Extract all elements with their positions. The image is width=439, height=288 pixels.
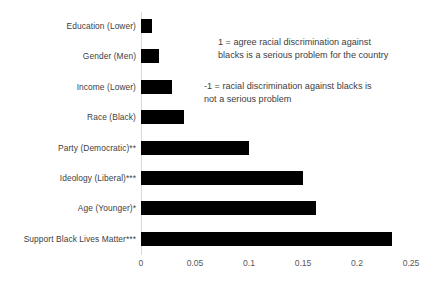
annotation-positive-coding: 1 = agree racial discrimination against … — [218, 36, 433, 62]
category-label-container: Gender (Men) — [0, 49, 136, 63]
bar — [141, 141, 249, 155]
x-tick-label: 0.05 — [175, 258, 215, 268]
category-label: Gender (Men) — [0, 49, 136, 63]
bar-row — [141, 201, 413, 215]
category-label-container: Education (Lower) — [0, 19, 136, 33]
category-label: Ideology (Liberal)*** — [0, 171, 136, 185]
category-label-container: Ideology (Liberal)*** — [0, 171, 136, 185]
category-label: Race (Black) — [0, 110, 136, 124]
x-tick-label: 0.1 — [229, 258, 269, 268]
bar-row — [141, 19, 413, 33]
category-label: Age (Younger)* — [0, 201, 136, 215]
bar-row — [141, 110, 413, 124]
category-label-container: Age (Younger)* — [0, 201, 136, 215]
category-label-container: Income (Lower) — [0, 80, 136, 94]
bar-row — [141, 232, 413, 246]
bar — [141, 80, 172, 94]
category-label-container: Race (Black) — [0, 110, 136, 124]
bar-row — [141, 141, 413, 155]
bar — [141, 171, 303, 185]
x-tick-label: 0.2 — [337, 258, 377, 268]
x-tick-label: 0 — [121, 258, 161, 268]
annotation-negative-coding: -1 = racial discrimination against black… — [204, 80, 432, 106]
bar-chart: 00.050.10.150.20.25 1 = agree racial dis… — [0, 0, 439, 288]
category-label-container: Party (Democratic)** — [0, 141, 136, 155]
bar — [141, 19, 152, 33]
category-label: Education (Lower) — [0, 19, 136, 33]
bar-row — [141, 171, 413, 185]
x-tick-label: 0.15 — [283, 258, 323, 268]
category-label: Support Black Lives Matter*** — [0, 232, 136, 246]
x-tick-label: 0.25 — [391, 258, 431, 268]
bar — [141, 201, 316, 215]
category-label: Income (Lower) — [0, 80, 136, 94]
category-label: Party (Democratic)** — [0, 141, 136, 155]
bar — [141, 49, 159, 63]
category-label-container: Support Black Lives Matter*** — [0, 232, 136, 246]
bar — [141, 232, 392, 246]
bar — [141, 110, 184, 124]
